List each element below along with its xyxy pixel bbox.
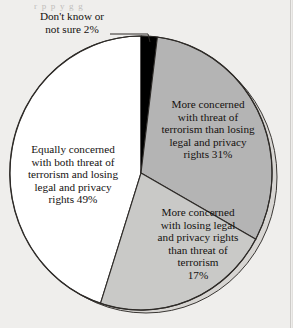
pie-chart-figure: r p p y g g Don't know or not sure 2% Mo… [0,0,293,328]
pie-label-terrorism: More concerned with threat of terrorism … [150,98,266,161]
page-gutter-line [290,0,291,328]
page-gutter-edge [292,0,293,328]
pie-label-dont-know: Don't know or not sure 2% [18,10,126,35]
pie-label-equally: Equally concerned with both threat of te… [12,143,134,206]
pie-label-rights: More concerned with losing legal and pri… [146,206,250,282]
